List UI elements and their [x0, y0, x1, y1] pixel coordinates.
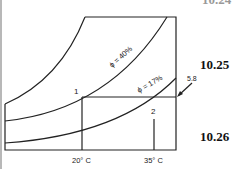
problem-number-partial: 10.24: [202, 0, 231, 8]
saturation-curve: [5, 17, 85, 104]
psychrometric-diagram: [0, 0, 234, 169]
problem-number-10-26: 10.26: [200, 129, 229, 145]
problem-number-10-25: 10.25: [200, 57, 229, 73]
rh-40-curve: [5, 17, 167, 121]
rh-17-curve: [5, 78, 176, 143]
chart-frame: [5, 17, 176, 150]
